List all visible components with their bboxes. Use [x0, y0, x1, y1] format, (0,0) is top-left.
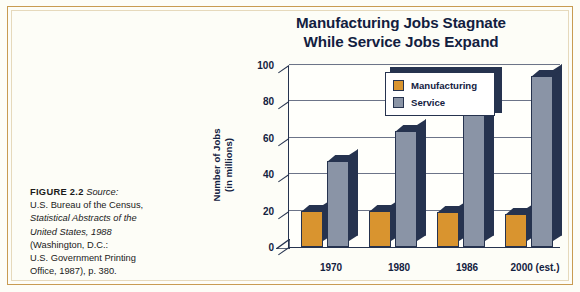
caption-line-2: Statistical Abstracts of the [30, 213, 137, 223]
bar-service-1986 [463, 114, 485, 247]
plot-area: 020406080100 1970198019862000 (est.) Man… [288, 66, 560, 248]
caption-line-6: Office, 1987), p. 380. [30, 266, 117, 276]
y-tick-mark [278, 101, 289, 109]
caption-line-5: U.S. Government Printing [30, 253, 136, 263]
y-tick-label: 80 [263, 96, 274, 107]
y-tick-label: 0 [268, 242, 274, 253]
y-tick-label: 60 [263, 132, 274, 143]
bar-side-face [553, 64, 562, 241]
bar-group [493, 66, 561, 247]
chart-title-line-1: Manufacturing Jobs Stagnate [238, 13, 564, 32]
chart-title-line-2: While Service Jobs Expand [238, 32, 564, 51]
bar-front-face [327, 161, 349, 247]
figure-label: FIGURE 2.2 [30, 187, 84, 197]
bar-manufacturing-1986 [437, 212, 459, 247]
bar-front-face [463, 114, 485, 247]
bar-front-face [369, 211, 391, 247]
bar-service-2000 [531, 76, 553, 247]
figure-source-word: Source: [86, 187, 118, 197]
caption-line-4: (Washington, D.C.: [30, 240, 108, 250]
bar-front-face [395, 131, 417, 247]
legend-swatch-manufacturing-icon [393, 80, 404, 91]
chart-title: Manufacturing Jobs Stagnate While Servic… [238, 13, 564, 52]
y-tick-label: 40 [263, 169, 274, 180]
bar-front-face [531, 76, 553, 247]
legend-box: Manufacturing Service [385, 72, 495, 116]
legend-label-manufacturing: Manufacturing [411, 80, 477, 91]
y-tick-mark [278, 138, 289, 146]
y-axis-title: Number of Jobs (in millions) [211, 110, 235, 220]
figure-caption: FIGURE 2.2 Source: U.S. Bureau of the Ce… [30, 186, 180, 278]
bar-manufacturing-2000 [505, 214, 527, 247]
bar-front-face [301, 211, 323, 247]
bar-chart: Number of Jobs (in millions) 02040608010… [214, 58, 564, 270]
y-tick-mark [278, 211, 289, 219]
x-axis-label: 1980 [388, 262, 410, 273]
legend-item-service: Service [393, 94, 494, 111]
x-axis-label: 1986 [456, 262, 478, 273]
y-axis-title-line-1: Number of Jobs [211, 110, 223, 220]
y-tick-mark [278, 65, 289, 73]
y-tick-mark [278, 174, 289, 182]
y-tick-label: 100 [257, 60, 274, 71]
figure-page: Manufacturing Jobs Stagnate While Servic… [0, 0, 580, 292]
caption-line-1: U.S. Bureau of the Census, [30, 200, 143, 210]
y-axis-title-line-2: (in millions) [223, 110, 235, 220]
bar-group [289, 66, 357, 247]
bar-manufacturing-1970 [301, 211, 323, 247]
bar-front-face [437, 212, 459, 247]
bar-service-1980 [395, 131, 417, 247]
x-axis-label: 2000 (est.) [511, 262, 560, 273]
bar-service-1970 [327, 161, 349, 247]
gridline [289, 64, 560, 65]
legend-label-service: Service [411, 97, 445, 108]
legend-swatch-service-icon [393, 97, 404, 108]
y-tick-label: 20 [263, 205, 274, 216]
legend-item-manufacturing: Manufacturing [393, 77, 494, 94]
x-axis-label: 1970 [320, 262, 342, 273]
caption-line-3: United States, 1988 [30, 227, 112, 237]
bar-manufacturing-1980 [369, 211, 391, 247]
bar-front-face [505, 214, 527, 247]
